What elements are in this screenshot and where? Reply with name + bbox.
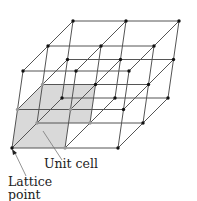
- lattice-point: [69, 108, 72, 111]
- lattice-edge: [23, 46, 48, 71]
- arrowhead-icon: [12, 149, 17, 155]
- lattice-point: [66, 58, 69, 61]
- lattice-edge: [143, 85, 149, 124]
- lattice-point: [63, 146, 66, 149]
- lattice-point: [88, 121, 91, 124]
- lattice-point: [152, 44, 155, 47]
- lattice-point: [124, 19, 127, 22]
- lattice-edge: [43, 60, 68, 85]
- lattice-edge: [76, 46, 101, 71]
- lattice-edge: [90, 98, 115, 123]
- lattice-edge: [149, 60, 174, 85]
- unit-cell-back-face: [37, 85, 96, 124]
- lattice-point: [10, 146, 13, 149]
- lattice-edge: [43, 46, 49, 85]
- lattice-point: [21, 69, 24, 72]
- lattice-edge: [129, 46, 154, 71]
- lattice-point: [119, 58, 122, 61]
- lattice-edge: [48, 21, 73, 46]
- lattice-point: [71, 19, 74, 22]
- lattice-edge: [115, 60, 121, 99]
- lattice-edge: [121, 21, 127, 60]
- lattice-point: [35, 121, 38, 124]
- lattice-edge: [18, 71, 24, 110]
- lattice-point: [141, 121, 144, 124]
- lattice-edge: [65, 123, 90, 148]
- lattice-edge: [118, 110, 124, 149]
- lattice-point-label-line2: point: [8, 188, 41, 201]
- lattice-point: [122, 108, 125, 111]
- lattice-grid: [0, 0, 197, 201]
- lattice-edge: [149, 46, 155, 85]
- lattice-point: [60, 96, 63, 99]
- lattice-edge: [118, 123, 143, 148]
- lattice-edge: [143, 98, 168, 123]
- lattice-point: [172, 58, 175, 61]
- lattice-point: [177, 19, 180, 22]
- lattice-edge: [96, 46, 102, 85]
- lattice-point: [41, 83, 44, 86]
- lattice-point: [147, 83, 150, 86]
- lattice-point: [16, 108, 19, 111]
- lattice-point: [46, 44, 49, 47]
- lattice-point: [94, 83, 97, 86]
- lattice-point: [166, 96, 169, 99]
- lattice-edge: [96, 60, 121, 85]
- lattice-diagram: Unit cell Lattice point: [0, 0, 197, 201]
- lattice-point-arrow-line: [14, 151, 26, 176]
- unit-cell-label: Unit cell: [44, 157, 98, 171]
- lattice-point: [127, 69, 130, 72]
- lattice-edge: [124, 71, 130, 110]
- lattice-edge: [174, 21, 180, 60]
- lattice-edge: [124, 85, 149, 110]
- lattice-edge: [168, 60, 174, 99]
- lattice-point: [99, 44, 102, 47]
- lattice-edge: [68, 21, 74, 60]
- lattice-point: [74, 69, 77, 72]
- lattice-point: [116, 146, 119, 149]
- lattice-point: [113, 96, 116, 99]
- lattice-edge: [154, 21, 179, 46]
- lattice-edge: [101, 21, 126, 46]
